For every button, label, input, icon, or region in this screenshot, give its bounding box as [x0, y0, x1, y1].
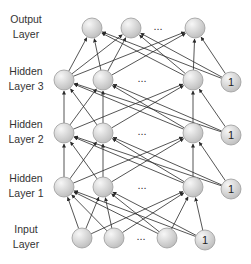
connection-edge	[112, 86, 184, 128]
neuron-node	[93, 123, 113, 143]
neuron-node	[93, 177, 113, 197]
connection-edge	[74, 191, 195, 237]
connection-edge	[72, 35, 122, 74]
neuron-node	[185, 18, 205, 38]
connection-edge	[193, 39, 194, 70]
neuron-node	[183, 177, 203, 197]
layer-label-input: Input	[14, 223, 37, 235]
neuron-node	[183, 70, 203, 90]
connection-edge	[73, 32, 184, 76]
connection-edge	[199, 142, 225, 181]
layer-label-output-line2: Layer	[13, 28, 40, 40]
neuron-node	[54, 70, 74, 90]
connection-edge	[86, 197, 99, 229]
neuron-node	[183, 123, 203, 143]
layer-label-hidden1: Hidden	[9, 172, 42, 184]
connection-edge	[102, 32, 221, 78]
neuron-node	[157, 228, 177, 248]
connection-edge	[199, 89, 225, 127]
neuron-node	[54, 123, 74, 143]
connection-edge	[70, 142, 97, 179]
bias-label: 1	[228, 129, 234, 141]
connection-edge	[71, 89, 98, 125]
network-svg: 1...1...1...1...... InputLayerHiddenLaye…	[0, 0, 251, 264]
layer-labels: InputLayerHiddenLayer 1HiddenLayer 2Hidd…	[8, 13, 43, 250]
layer-label-hidden3-line2: Layer 3	[8, 80, 43, 92]
connection-edge	[113, 192, 196, 235]
connection-edge	[94, 39, 101, 70]
layer-label-hidden2-line2: Layer 2	[8, 133, 43, 145]
neuron-node	[72, 228, 92, 248]
connection-edge	[91, 192, 183, 234]
ellipsis: ...	[137, 72, 146, 84]
connection-edge	[112, 86, 184, 128]
neuron-node	[93, 70, 113, 90]
bias-label: 1	[228, 76, 234, 88]
connection-edge	[105, 198, 112, 228]
connection-edge	[113, 137, 222, 185]
connection-edge	[68, 197, 79, 228]
neuron-node	[54, 177, 74, 197]
layer-label-hidden3: Hidden	[9, 65, 42, 77]
bias-label: 1	[202, 234, 208, 246]
connection-edge	[70, 142, 97, 179]
bias-label: 1	[228, 183, 234, 195]
ellipsis: ...	[153, 20, 162, 32]
connection-edge	[72, 195, 107, 231]
connection-edge	[102, 33, 184, 75]
ellipsis: ...	[136, 230, 145, 242]
layer-label-hidden2: Hidden	[9, 118, 42, 130]
neural-network-diagram: 1...1...1...1...... InputLayerHiddenLaye…	[0, 0, 251, 264]
neurons: 1...1...1...1......	[54, 18, 241, 250]
neuron-node	[104, 228, 124, 248]
ellipsis: ...	[137, 125, 146, 137]
ellipsis: ...	[137, 179, 146, 191]
layer-label-input-line2: Layer	[13, 238, 40, 250]
connection-edge	[69, 38, 87, 72]
connection-edge	[112, 139, 184, 182]
layer-label-hidden1-line2: Layer 1	[8, 187, 43, 199]
connection-edge	[112, 139, 184, 182]
neuron-node	[82, 18, 102, 38]
connection-edge	[70, 89, 97, 125]
connection-edge	[108, 38, 126, 72]
neuron-node	[121, 18, 141, 38]
layer-label-output: Output	[10, 13, 42, 25]
connection-edge	[113, 84, 222, 131]
connection-edge	[195, 198, 202, 231]
